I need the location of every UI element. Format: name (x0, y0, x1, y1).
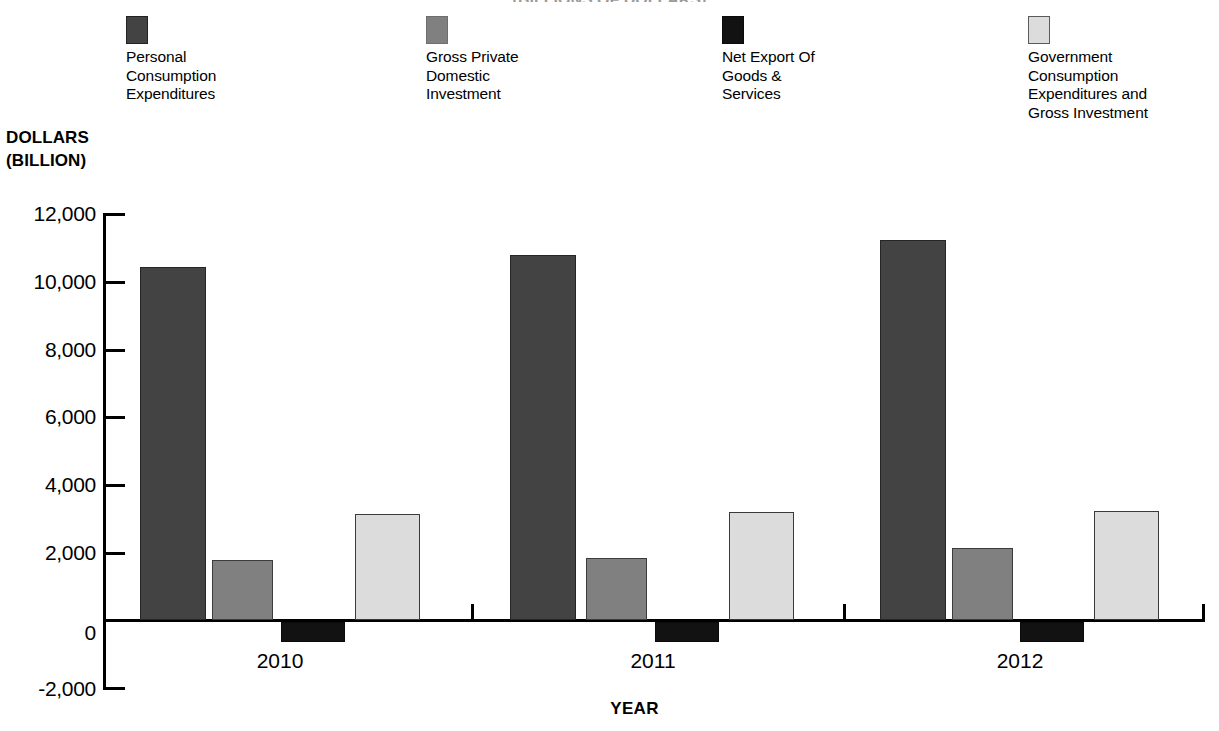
y-tick-label: 4,000 (10, 474, 96, 495)
x-tick-label-2012: 2012 (960, 650, 1080, 671)
bar-2011-personal-consumption-expenditures[interactable] (510, 255, 576, 620)
bar-2012-gross-private-domestic-investment[interactable] (952, 548, 1013, 620)
y-tick-label: 2,000 (10, 542, 96, 563)
x-group-separator-tick (471, 604, 474, 620)
bar-2012-government-consumption-expenditures-and-gross-investment[interactable] (1094, 511, 1159, 620)
y-tick-mark (103, 213, 125, 216)
bar-2011-government-consumption-expenditures-and-gross-investment[interactable] (729, 512, 794, 620)
y-tick-mark (103, 416, 125, 419)
bar-2010-net-export-of-goods-and-services[interactable] (281, 622, 345, 642)
bar-2010-personal-consumption-expenditures[interactable] (140, 267, 206, 620)
x-group-separator-tick (843, 604, 846, 620)
y-tick-mark (103, 687, 125, 690)
x-group-separator-tick (1202, 604, 1205, 620)
y-tick-mark (103, 552, 125, 555)
bar-2012-personal-consumption-expenditures[interactable] (880, 240, 946, 620)
bar-2010-government-consumption-expenditures-and-gross-investment[interactable] (355, 514, 420, 620)
bar-2011-net-export-of-goods-and-services[interactable] (655, 622, 719, 642)
plot-area: 12,000 10,000 8,000 6,000 4,000 2,000 0 … (0, 0, 1219, 731)
bar-2012-net-export-of-goods-and-services[interactable] (1020, 622, 1084, 642)
bar-2010-gross-private-domestic-investment[interactable] (212, 560, 273, 620)
y-tick-label: -2,000 (10, 678, 96, 699)
y-tick-mark (103, 484, 125, 487)
y-tick-label: 6,000 (10, 406, 96, 427)
x-axis-title: YEAR (0, 699, 1219, 719)
y-tick-mark (103, 349, 125, 352)
x-axis-title-text: YEAR (610, 699, 658, 719)
y-tick-mark (103, 281, 125, 284)
bar-2011-gross-private-domestic-investment[interactable] (586, 558, 647, 620)
y-tick-label: 8,000 (10, 339, 96, 360)
y-tick-label: 0 (10, 622, 96, 643)
y-tick-label: 10,000 (10, 271, 96, 292)
x-tick-label-2011: 2011 (593, 650, 713, 671)
y-tick-label: 12,000 (10, 203, 96, 224)
x-tick-label-2010: 2010 (220, 650, 340, 671)
